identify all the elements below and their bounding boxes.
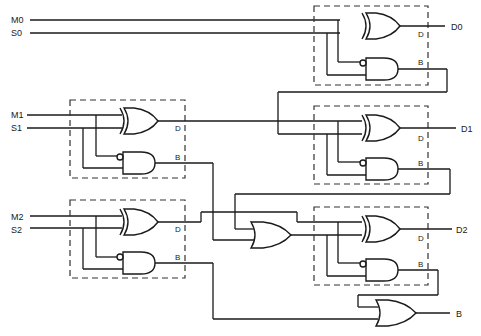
port-label-d: D bbox=[418, 30, 424, 39]
input-label-m1: M1 bbox=[11, 110, 24, 120]
or-gate-1 bbox=[251, 222, 362, 248]
wire-borrow-hs3-to-hs4 bbox=[278, 69, 447, 134]
port-label-b: B bbox=[175, 253, 180, 262]
port-label-d: D bbox=[175, 124, 181, 133]
port-label-d: D bbox=[175, 225, 181, 234]
wire-hs2-d-to-hs5 bbox=[158, 212, 362, 222]
output-label-d0: D0 bbox=[451, 22, 463, 32]
port-label-b: B bbox=[418, 58, 423, 67]
output-label-d1: D1 bbox=[461, 124, 473, 134]
input-label-s1: S1 bbox=[11, 123, 22, 133]
output-label-b: B bbox=[456, 309, 462, 319]
circuit-svg: M0 S0 D B D0 M1 S1 D bbox=[0, 0, 481, 336]
half-subtractor-block-2: D B bbox=[30, 200, 185, 278]
wire-hs4-b-to-or1 bbox=[235, 169, 450, 229]
input-label-m2: M2 bbox=[11, 212, 24, 222]
port-label-b: B bbox=[175, 153, 180, 162]
port-label-d: D bbox=[418, 134, 424, 143]
port-label-d: D bbox=[418, 234, 424, 243]
port-label-b: B bbox=[418, 260, 423, 269]
half-subtractor-block-1: D B bbox=[27, 100, 185, 178]
half-subtractor-block-5: D B bbox=[314, 207, 452, 285]
half-subtractor-block-4: D B bbox=[314, 106, 456, 184]
wire-hs2-b-to-or2 bbox=[155, 263, 378, 319]
input-label-s0: S0 bbox=[11, 28, 22, 38]
input-label-m0: M0 bbox=[11, 15, 24, 25]
wire-m0-s0 bbox=[30, 20, 340, 33]
half-subtractor-block-3: D B bbox=[314, 6, 447, 85]
port-label-b: B bbox=[418, 159, 423, 168]
subtractor-circuit-diagram: M0 S0 D B D0 M1 S1 D bbox=[0, 0, 481, 336]
input-label-s2: S2 bbox=[11, 225, 22, 235]
or-gate-2 bbox=[376, 300, 450, 326]
output-label-d2: D2 bbox=[456, 225, 468, 235]
